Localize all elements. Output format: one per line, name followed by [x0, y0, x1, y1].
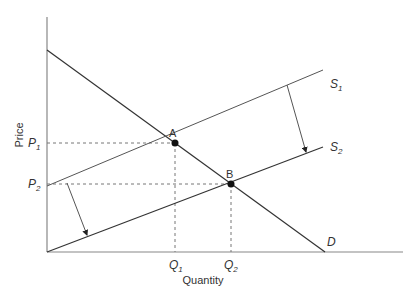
supply-curve-2 — [47, 147, 323, 252]
shift-arrow-left — [67, 183, 87, 235]
x-axis-title: Quantity — [183, 274, 224, 286]
p1-label: P1 — [28, 136, 40, 152]
point-a-marker — [172, 140, 179, 147]
q2-label: Q2 — [224, 258, 238, 274]
demand-curve — [47, 50, 325, 252]
point-b-marker — [228, 181, 235, 188]
demand-label: D — [327, 235, 336, 249]
supply-1-label: S1 — [330, 77, 342, 93]
supply-curve-1 — [47, 70, 323, 186]
point-a-label: A — [169, 127, 177, 139]
point-b-label: B — [226, 168, 233, 180]
shift-arrow-right — [287, 85, 306, 152]
y-axis-title: Price — [13, 122, 25, 147]
supply-2-label: S2 — [330, 140, 343, 156]
p2-label: P2 — [28, 177, 41, 193]
q1-label: Q1 — [169, 258, 183, 274]
supply-demand-diagram: A B S1 S2 D P1 P2 Q1 Q2 Quantity Price — [0, 0, 415, 298]
